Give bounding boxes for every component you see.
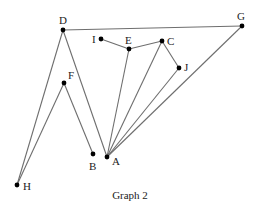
edge-f-h bbox=[17, 83, 64, 185]
edge-e-a bbox=[107, 49, 129, 157]
vertex-h bbox=[15, 183, 20, 188]
edge-d-h bbox=[17, 30, 63, 185]
vertex-a bbox=[105, 155, 110, 160]
vertex-c bbox=[160, 39, 165, 44]
vertex-d bbox=[61, 28, 66, 33]
graph-diagram: ABCDEFGHIJ bbox=[0, 0, 260, 215]
graph-caption: Graph 2 bbox=[0, 189, 260, 201]
vertex-label-i: I bbox=[92, 33, 96, 45]
edge-e-c bbox=[129, 41, 162, 49]
vertex-label-a: A bbox=[112, 155, 120, 167]
vertex-f bbox=[62, 81, 67, 86]
edge-d-g bbox=[63, 26, 242, 30]
vertex-label-f: F bbox=[68, 69, 74, 81]
vertex-g bbox=[240, 24, 245, 29]
vertices-group: ABCDEFGHIJ bbox=[15, 10, 245, 192]
edge-d-a bbox=[63, 30, 107, 157]
vertex-label-b: B bbox=[89, 160, 96, 172]
vertex-label-j: J bbox=[184, 61, 189, 73]
vertex-label-g: G bbox=[237, 10, 245, 22]
vertex-j bbox=[177, 66, 182, 71]
vertex-label-e: E bbox=[125, 34, 132, 46]
vertex-i bbox=[99, 37, 104, 42]
edge-f-b bbox=[64, 83, 93, 154]
vertex-label-c: C bbox=[167, 35, 174, 47]
vertex-label-d: D bbox=[59, 14, 67, 26]
vertex-b bbox=[91, 152, 96, 157]
vertex-e bbox=[127, 47, 132, 52]
